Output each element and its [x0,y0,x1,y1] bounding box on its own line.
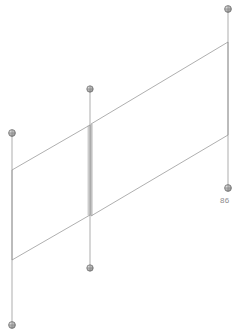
panel-group [12,42,228,260]
node-group [9,6,232,329]
node-right-top[interactable] [225,6,232,13]
left-panel [12,125,90,260]
dimension-label-86: 86 [220,196,229,205]
node-middle-top[interactable] [87,86,93,92]
drawing-canvas: 86 [0,0,246,336]
node-right-bottom[interactable] [225,185,232,192]
post-group [12,9,228,325]
node-left-top[interactable] [9,130,16,137]
wireframe-svg [0,0,246,336]
node-left-bottom[interactable] [9,322,16,329]
right-panel [91,42,228,216]
node-middle-bottom[interactable] [87,265,93,271]
